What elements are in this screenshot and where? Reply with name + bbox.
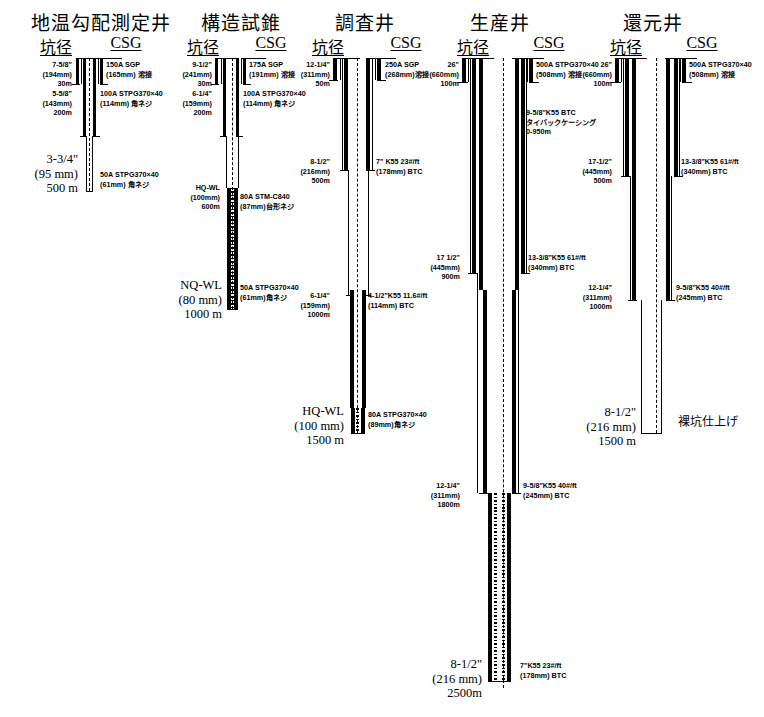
well-title-2: 構造試錐 bbox=[178, 8, 303, 35]
hole-note-1-1: 7-5/8" (194mm) 30m bbox=[0, 60, 72, 89]
well-axis-5 bbox=[656, 58, 657, 433]
hole-note-4-4: 8-1/2" (216 mm) 2500m bbox=[396, 657, 482, 701]
casing-string-3-3-left bbox=[350, 290, 354, 408]
casing-string-1-2-right bbox=[93, 58, 96, 136]
csg-note-3-2: 7" K55 23#/ft (178mm) BTC bbox=[376, 157, 476, 176]
liner-4-4-left bbox=[488, 493, 492, 681]
well-casing-program-diagram: 地温勾配測定井 坑径 CSG 7-5/8" (194mm) 30m 5-5/8"… bbox=[0, 0, 764, 717]
casing-string-4-2-right bbox=[521, 58, 525, 273]
casing-string-4-1-right bbox=[529, 58, 533, 82]
casing-string-4-3-left bbox=[483, 290, 487, 493]
hole-note-2-1: 9-1/2" (241mm) 30m bbox=[140, 60, 212, 89]
casing-string-5-2-left bbox=[625, 58, 629, 176]
open-hole-wall-2-1r bbox=[241, 58, 242, 84]
hole-note-3-2: 8-1/2" (216mm) 500m bbox=[258, 157, 330, 186]
hole-note-4-3: 12-1/4" (311mm) 1800m bbox=[388, 481, 460, 510]
well-bottom-5 bbox=[641, 433, 662, 434]
open-hole-wall-5-1r bbox=[680, 58, 681, 82]
casing-shoe-2-1r bbox=[243, 84, 251, 85]
casing-string-5-3-left bbox=[632, 58, 636, 300]
casing-shoe-4-3l bbox=[479, 493, 488, 494]
subhead-hole-4: 坑径 bbox=[445, 34, 501, 58]
hole-note-2-4: NQ-WL (80 mm) 1000 m bbox=[138, 278, 222, 322]
well-title-4: 生産井 bbox=[455, 8, 545, 35]
casing-string-2-2-left bbox=[223, 58, 226, 136]
hole-note-5-3: 12-1/4" (311mm) 1000m bbox=[540, 283, 612, 312]
csg-note-5-1: 500A STPG370×40 (508mm) 溶接 bbox=[689, 60, 764, 79]
casing-shoe-1-2r bbox=[93, 136, 100, 137]
casing-string-2-1-left bbox=[215, 58, 218, 84]
casing-string-3-2-left bbox=[344, 58, 348, 170]
csg-note-2-2: 100A STPG370×40 (114mm) 角ネジ bbox=[243, 89, 343, 108]
casing-shoe-4-1r bbox=[529, 82, 539, 83]
open-hole-wall-5-2l bbox=[623, 58, 624, 176]
tieback-casing-left bbox=[479, 58, 483, 290]
well-axis-3 bbox=[357, 58, 358, 433]
open-hole-wall-1-3l bbox=[86, 136, 87, 191]
open-hole-wall-2-3r bbox=[238, 136, 239, 188]
csg-note-4-4: 7"K55 23#/ft (178mm) BTC bbox=[520, 661, 630, 680]
hole-note-1-3: 3-3/4" (95 mm) 500 m bbox=[0, 152, 78, 196]
subhead-csg-2: CSG bbox=[245, 34, 297, 52]
casing-string-2-1-right bbox=[243, 58, 246, 84]
open-hole-wall-4-2l bbox=[470, 58, 471, 273]
subhead-hole-1: 坑径 bbox=[28, 34, 84, 58]
hole-note-5-1: 26" (660mm) 100m bbox=[552, 60, 612, 89]
open-hole-wall-1-1l bbox=[81, 58, 82, 84]
subhead-csg-3: CSG bbox=[380, 34, 432, 52]
hole-note-5-4: 8-1/2" (216 mm) 1500 m bbox=[548, 405, 636, 449]
casing-string-3-2-right bbox=[366, 58, 370, 170]
hole-note-3-4: HQ-WL (100 mm) 1500 m bbox=[252, 404, 344, 448]
casing-shoe-4-1l bbox=[458, 82, 468, 83]
casing-string-5-2-right bbox=[674, 58, 678, 176]
casing-string-4-2-left bbox=[472, 58, 476, 273]
casing-shoe-1-1r bbox=[100, 84, 108, 85]
subhead-hole-3: 坑径 bbox=[300, 34, 356, 58]
hole-note-2-3: HQ-WL (100mm) 600m bbox=[140, 183, 220, 212]
well-axis-1 bbox=[89, 58, 90, 191]
open-hole-wall-5-1l bbox=[621, 58, 622, 82]
subhead-csg-1: CSG bbox=[100, 34, 152, 52]
open-hole-wall-2-1l bbox=[221, 58, 222, 84]
casing-string-5-3-right bbox=[666, 58, 670, 300]
subhead-csg-5: CSG bbox=[676, 34, 728, 52]
ground-line-4 bbox=[462, 58, 494, 59]
open-hole-wall-4-3r bbox=[518, 273, 519, 493]
casing-shoe-3-1l bbox=[329, 80, 338, 81]
well-title-3: 調査井 bbox=[320, 8, 410, 35]
ground-line-2 bbox=[215, 58, 237, 59]
casing-shoe-1-1l bbox=[72, 84, 80, 85]
casing-shoe-5-1l bbox=[611, 82, 621, 83]
open-hole-wall-3-2l bbox=[342, 58, 343, 170]
open-hole-wall-5-4l bbox=[641, 300, 642, 433]
subhead-hole-2: 坑径 bbox=[175, 34, 231, 58]
casing-shoe-4-3r bbox=[512, 493, 521, 494]
csg-note-5-3: 9-5/8"K55 40#/ft (245mm) BTC bbox=[676, 283, 764, 302]
well-bottom-1 bbox=[86, 191, 93, 192]
casing-string-3-3-right bbox=[362, 290, 366, 408]
open-hole-wall-3-2r bbox=[372, 58, 373, 170]
casing-string-1-1-right bbox=[100, 58, 103, 84]
casing-string-1-1-left bbox=[76, 58, 79, 84]
casing-string-3-1-right bbox=[377, 58, 381, 80]
ground-line-1 bbox=[76, 58, 100, 59]
csg-note-3-3: 4-1/2"K55 11.6#/ft (114mm) BTC bbox=[368, 291, 478, 310]
csg-note-3-4: 80A STPG370×40 (89mm)角ネジ bbox=[368, 410, 468, 429]
casing-string-4-3-right bbox=[512, 290, 516, 493]
open-hole-wall-3-3l bbox=[348, 170, 349, 295]
casing-shoe-5-3r bbox=[666, 300, 675, 301]
casing-string-3-1-left bbox=[333, 58, 337, 80]
tieback-note-4: 9-5/8"K55 BTC タイバックケーシング 0-950m bbox=[526, 108, 631, 137]
slotted-liner-3 bbox=[356, 408, 359, 433]
slotted-liner-2 bbox=[231, 188, 234, 309]
open-hole-wall-5-2r bbox=[679, 58, 680, 176]
slotted-liner-4a bbox=[494, 493, 497, 681]
liner-3-4-right bbox=[361, 408, 365, 433]
hole-note-3-3: 6-1/4" (159mm) 1000m bbox=[258, 291, 330, 320]
casing-shoe-4-2r bbox=[521, 273, 530, 274]
open-hole-wall-3-1l bbox=[340, 58, 341, 80]
open-hole-wall-5-3r bbox=[671, 176, 672, 300]
ground-line-1b bbox=[100, 58, 122, 59]
liner-3-4-left bbox=[351, 408, 355, 433]
well-bottom-4 bbox=[488, 681, 511, 682]
